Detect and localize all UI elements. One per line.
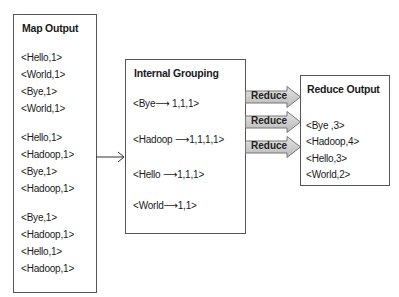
grouping-values: 1,1,1> [177, 169, 204, 180]
reduce-label: Reduce [251, 90, 287, 101]
map-output-line: <World,1> [21, 69, 65, 80]
grouping-key: <World [133, 200, 164, 211]
grouping-row: <Bye⟶ 1,1,1> [133, 98, 199, 109]
grouping-values: 1,1> [178, 200, 197, 211]
reduce-label: Reduce [251, 140, 287, 151]
map-output-line: <Bye,1> [21, 166, 57, 177]
map-output-box: Map Output <Hello,1> <World,1> <Bye,1> <… [13, 14, 97, 293]
connector-arrow-icon [96, 150, 128, 164]
map-output-line: <Hello,1> [21, 132, 62, 143]
reduce-output-line: <Hadoop,4> [306, 136, 359, 147]
map-output-line: <Hadoop,1> [21, 183, 74, 194]
reduce-arrow: Reduce [245, 136, 301, 158]
grouping-values: 1,1,1,1> [189, 134, 224, 145]
map-output-line: <Bye,1> [21, 212, 57, 223]
right-arrow-icon: ⟶ [163, 169, 177, 180]
reduce-output-box: Reduce Output <Bye ,3> <Hadoop,4> <Hello… [300, 75, 390, 186]
right-arrow-icon: ⟶ [175, 134, 189, 145]
map-output-line: <Bye,1> [21, 86, 57, 97]
reduce-label: Reduce [251, 115, 287, 126]
reduce-arrow: Reduce [245, 86, 301, 108]
right-arrow-icon: ⟶ [155, 98, 169, 109]
map-output-line: <Hadoop,1> [21, 263, 74, 274]
reduce-output-line: <World,2> [306, 169, 350, 180]
map-output-line: <World,1> [21, 103, 65, 114]
grouping-row: <Hello ⟶1,1,1> [133, 169, 204, 180]
grouping-row: <Hadoop ⟶1,1,1,1> [133, 134, 224, 145]
map-output-line: <Hello,1> [21, 246, 62, 257]
reduce-output-line: <Bye ,3> [306, 120, 344, 131]
reduce-output-line: <Hello,3> [306, 153, 347, 164]
reduce-output-title: Reduce Output [307, 83, 380, 95]
map-output-line: <Hadoop,1> [21, 149, 74, 160]
internal-grouping-title: Internal Grouping [134, 67, 219, 79]
reduce-arrow: Reduce [245, 111, 301, 133]
grouping-values: 1,1,1> [172, 98, 199, 109]
grouping-key: <Hadoop [133, 134, 172, 145]
right-arrow-icon: ⟶ [164, 200, 178, 211]
map-output-line: <Hadoop,1> [21, 229, 74, 240]
grouping-row: <World⟶1,1> [133, 200, 197, 211]
grouping-key: <Bye [133, 98, 155, 109]
map-output-title: Map Output [22, 22, 78, 34]
map-output-line: <Hello,1> [21, 52, 62, 63]
internal-grouping-box: Internal Grouping <Bye⟶ 1,1,1> <Hadoop ⟶… [125, 59, 246, 234]
grouping-key: <Hello [133, 169, 160, 180]
